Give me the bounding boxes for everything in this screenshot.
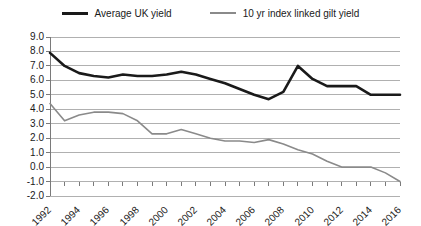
y-tick-label: 1.0 [0, 148, 44, 158]
legend-line-icon [62, 12, 88, 15]
plot-area [50, 37, 400, 196]
y-tick-label: -1.0 [0, 177, 44, 187]
x-tick-label: 2016 [380, 205, 403, 226]
series-line [50, 53, 400, 99]
y-tick-label: 5.0 [0, 90, 44, 100]
y-tick-label: 0.0 [0, 162, 44, 172]
x-tick-label: 2000 [147, 205, 170, 226]
x-tick-label: 2010 [293, 205, 316, 226]
y-tick-label: -2.0 [0, 191, 44, 201]
legend-label: 10 yr index linked gilt yield [243, 8, 360, 19]
y-tick-label: 2.0 [0, 133, 44, 143]
legend-entry: 10 yr index linked gilt yield [210, 8, 360, 19]
y-tick-label: 6.0 [0, 75, 44, 85]
x-tick-label: 1998 [118, 205, 141, 226]
line-chart: Average UK yield10 yr index linked gilt … [0, 0, 421, 226]
x-tick-label: 2012 [322, 205, 345, 226]
legend-line-icon [210, 12, 236, 14]
chart-legend: Average UK yield10 yr index linked gilt … [0, 3, 421, 23]
x-tick-label: 1996 [89, 205, 112, 226]
y-tick-label: 3.0 [0, 119, 44, 129]
y-tick-label: 4.0 [0, 104, 44, 114]
x-tick-label: 2008 [264, 205, 287, 226]
y-tick-label: 9.0 [0, 32, 44, 42]
x-tick-label: 2004 [205, 205, 228, 226]
x-tick-label: 1992 [30, 205, 53, 226]
legend-entry: Average UK yield [62, 8, 172, 19]
series-lines [50, 37, 400, 196]
x-tick-label: 2006 [234, 205, 257, 226]
x-axis: 1992199419961998200020022004200620082010… [50, 196, 400, 226]
y-tick-label: 8.0 [0, 46, 44, 56]
legend-label: Average UK yield [95, 8, 172, 19]
y-axis: 9.08.07.06.05.04.03.02.01.00.0-1.0-2.0 [0, 37, 44, 196]
x-tick-label: 2014 [351, 205, 374, 226]
x-tick-label: 1994 [59, 205, 82, 226]
y-tick-label: 7.0 [0, 61, 44, 71]
series-line [50, 103, 400, 181]
x-tick-label: 2002 [176, 205, 199, 226]
